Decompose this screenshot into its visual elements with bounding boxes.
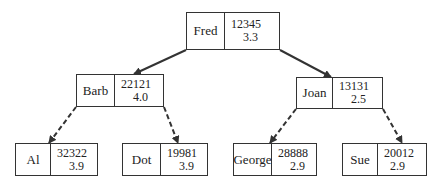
- node-value: 3.9: [57, 160, 97, 173]
- edge-fred-barb: [134, 50, 186, 74]
- node-key: 19981: [167, 147, 207, 160]
- node-name: Fred: [187, 13, 225, 49]
- node-name: Joan: [297, 78, 333, 108]
- node-name: Sue: [343, 144, 378, 175]
- node-value: 2.9: [384, 160, 426, 173]
- node-value: 3.9: [167, 160, 207, 173]
- edge-barb-dot: [164, 107, 178, 143]
- node-george: George 288882.9: [233, 143, 317, 176]
- node-key: 20012: [384, 147, 426, 160]
- node-barb: Barb 221214.0: [76, 74, 164, 107]
- node-joan: Joan 131312.5: [296, 77, 383, 109]
- node-sue: Sue 200122.9: [342, 143, 427, 176]
- edge-joan-sue: [383, 109, 402, 143]
- node-name: George: [234, 144, 272, 175]
- node-dot: Dot 199813.9: [122, 143, 208, 176]
- edge-joan-george: [270, 109, 296, 143]
- node-fred: Fred 123453.3: [186, 12, 280, 50]
- node-value: 4.0: [121, 91, 163, 104]
- node-name: Barb: [77, 75, 115, 106]
- node-name: Dot: [123, 144, 161, 175]
- node-value: 2.9: [278, 160, 316, 173]
- node-name: Al: [16, 144, 51, 175]
- node-value: 2.5: [339, 93, 382, 106]
- node-key: 28888: [278, 147, 316, 160]
- node-key: 32322: [57, 147, 97, 160]
- edge-fred-joan: [280, 50, 331, 77]
- node-value: 3.3: [231, 31, 279, 44]
- node-al: Al 323223.9: [15, 143, 98, 176]
- edge-barb-al: [49, 107, 76, 143]
- node-key: 22121: [121, 78, 163, 91]
